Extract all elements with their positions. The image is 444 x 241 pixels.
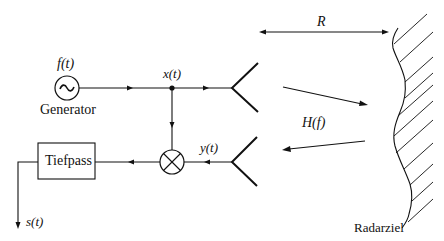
mixer-icon [160, 150, 184, 174]
range-arrow [259, 30, 389, 35]
transmit-signal-label: x(t) [163, 67, 181, 80]
transmit-path [79, 85, 232, 90]
receive-antenna-icon [232, 137, 257, 186]
target-label: Radarziel [354, 221, 404, 234]
output-signal-label: s(t) [26, 215, 43, 228]
lowpass-label: Tiefpass [45, 154, 92, 168]
receive-wave-arrow [282, 141, 365, 152]
generator-label: Generator [40, 103, 96, 117]
receive-path [95, 160, 232, 165]
channel-label: H(f) [302, 116, 325, 130]
generator-icon [55, 76, 79, 100]
transmit-antenna-icon [232, 63, 258, 112]
diagram-canvas [0, 0, 444, 241]
transmit-wave-arrow [283, 87, 368, 106]
receive-signal-label: y(t) [200, 141, 218, 154]
generator-signal-label: f(t) [57, 57, 74, 71]
radar-target-icon [392, 14, 433, 228]
lo-path [170, 88, 175, 150]
range-label: R [317, 15, 326, 29]
